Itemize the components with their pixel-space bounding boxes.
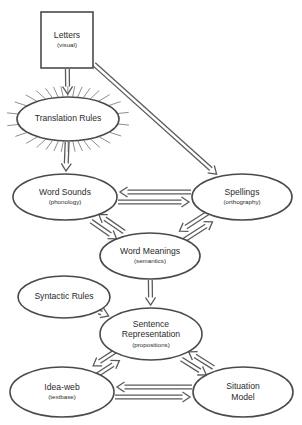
node-letters[interactable]: Letters(visual) [41,12,93,68]
node-sublabel: (phonology) [49,198,82,205]
edge-word-sounds-word-meanings-backward [99,214,126,233]
node-sublabel: (visual) [57,41,77,48]
node-word-meanings[interactable]: Word Meanings(semantics) [100,233,200,279]
node-label: Representation [122,329,181,339]
node-label: Idea-web [44,382,80,392]
node-label: Model [231,392,254,402]
node-word-sounds[interactable]: Word Sounds(phonology) [13,174,117,220]
node-spellings[interactable]: Spellings(orthography) [192,174,292,220]
node-label: Word Sounds [39,187,91,197]
node-sublabel: (semantics) [134,257,166,264]
node-idea-web[interactable]: Idea-web(textbase) [10,367,114,417]
edge-word-sounds-spellings-backward [120,187,191,197]
node-syntactic-rules[interactable]: Syntactic Rules [18,276,110,318]
node-label: Situation [226,381,260,391]
edge-idea-web-situation-model-forward [115,392,190,402]
reading-model-diagram: Letters(visual)Translation RulesWord Sou… [0,0,302,425]
node-label: Spellings [225,187,260,197]
node-translation-rules[interactable]: Translation Rules [17,97,119,141]
node-sentence-representation[interactable]: SentenceRepresentation(propositions) [100,308,202,360]
node-label: Sentence [133,319,170,329]
node-label: Syntactic Rules [34,291,93,301]
node-sublabel: (textbase) [48,393,76,400]
edge-sentence-situation-model-backward [189,352,215,370]
node-label: Letters [54,30,80,40]
edge-word-meanings-to-sentence [146,280,156,305]
node-sublabel: (propositions) [132,341,170,348]
edge-sentence-situation-model-forward [180,357,206,375]
node-label: Word Meanings [120,246,180,256]
nodes-layer: Letters(visual)Translation RulesWord Sou… [10,12,293,417]
edge-word-sounds-spellings-forward [118,197,189,207]
edge-word-sounds-word-meanings-forward [90,220,117,239]
node-situation-model[interactable]: SituationModel [193,367,293,417]
node-sublabel: (orthography) [223,198,260,205]
node-label: Translation Rules [35,113,102,123]
edge-idea-web-situation-model-backward [117,382,192,392]
